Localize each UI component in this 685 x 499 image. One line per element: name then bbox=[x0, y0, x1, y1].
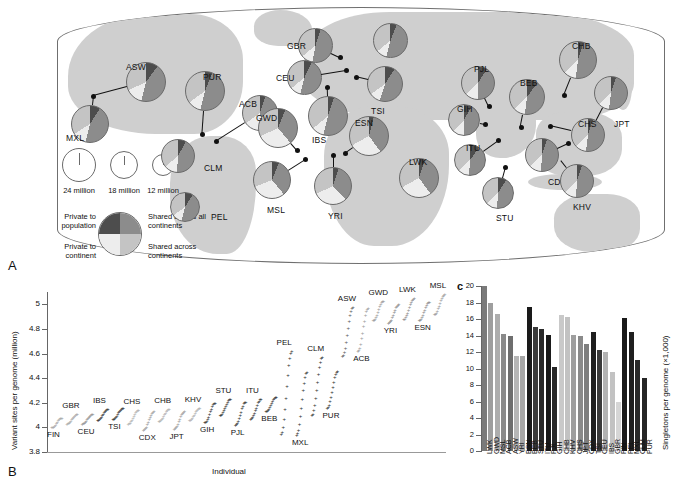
pie-label-gih: GIH bbox=[457, 104, 473, 114]
scatter-group-label-tsi: TSI bbox=[108, 422, 120, 431]
pie-label-ceu: CEU bbox=[276, 73, 295, 83]
pie-chart-cdx bbox=[525, 138, 559, 172]
panel-c-y-tick bbox=[476, 319, 481, 320]
panel-c-y-tick-label: 18 bbox=[460, 298, 474, 307]
scatter-point: + bbox=[360, 335, 364, 341]
scatter-point: + bbox=[229, 396, 233, 402]
pie-label-khv: KHV bbox=[573, 202, 591, 212]
bar-jpt bbox=[578, 336, 583, 451]
scatter-group-label-mxl: MXL bbox=[292, 438, 308, 447]
pie-label-mxl: MXL bbox=[66, 133, 84, 143]
scatter-group-label-acb: ACB bbox=[353, 354, 369, 363]
scatter-point: + bbox=[382, 298, 386, 304]
scatter-point: + bbox=[397, 301, 401, 307]
panel-b-y-tick bbox=[42, 427, 47, 428]
scatter-group-label-asw: ASW bbox=[338, 294, 356, 303]
bar-clm bbox=[635, 360, 640, 451]
panel-b-y-tick bbox=[42, 329, 47, 330]
bar-mxl bbox=[629, 332, 634, 451]
scatter-point: + bbox=[305, 369, 309, 375]
pie-label-clm: CLM bbox=[204, 163, 223, 173]
scatter-group-label-itu: ITU bbox=[246, 386, 259, 395]
scatter-group-label-ibs: IBS bbox=[93, 396, 106, 405]
scatter-point: + bbox=[302, 380, 306, 386]
panel-b-y-tick bbox=[42, 304, 47, 305]
scatter-point: + bbox=[290, 348, 294, 354]
scatter-point: + bbox=[60, 415, 64, 421]
bar-asw bbox=[508, 336, 513, 451]
panel-a-letter: A bbox=[8, 258, 17, 273]
size-legend-circle-24m bbox=[62, 148, 96, 182]
pie-label-chs: CHS bbox=[578, 119, 597, 129]
pie-label-chb: CHB bbox=[572, 41, 591, 51]
quad-shared-across-continents bbox=[120, 234, 141, 255]
scatter-point: + bbox=[137, 407, 141, 413]
scatter-point: + bbox=[412, 295, 416, 301]
panel-c-y-tick-label: 20 bbox=[460, 281, 474, 290]
scatter-group-label-msl: MSL bbox=[430, 281, 446, 290]
scatter-point: + bbox=[318, 364, 322, 370]
panel-a-world-map: 24 million 18 million 12 million Private… bbox=[0, 0, 685, 272]
panel-c-plot-area bbox=[482, 286, 648, 451]
pie-chart-msl bbox=[253, 161, 291, 199]
pie-label-lwk: LWK bbox=[409, 157, 427, 167]
pie-label-tsi: TSI bbox=[371, 106, 385, 116]
bar-msl bbox=[495, 314, 500, 451]
panel-c-y-tick bbox=[476, 336, 481, 337]
scatter-point: + bbox=[167, 406, 171, 412]
panel-c-y-tick bbox=[476, 435, 481, 436]
panel-c-y-tick bbox=[476, 286, 481, 287]
scatter-group-label-fin: FIN bbox=[47, 430, 60, 439]
scatter-point: + bbox=[317, 371, 321, 377]
bar-stu bbox=[533, 327, 538, 451]
bar-pjl bbox=[546, 335, 551, 451]
bar-ibs bbox=[603, 352, 608, 451]
panel-c-y-tick bbox=[476, 451, 481, 452]
panel-b-letter: B bbox=[8, 464, 17, 479]
scatter-point: + bbox=[315, 387, 319, 393]
scatter-point: + bbox=[362, 323, 366, 329]
pie-chart-pel bbox=[170, 192, 200, 222]
bar-ceu bbox=[597, 350, 602, 451]
cat-legend-label-private-population: Private to population bbox=[42, 212, 96, 230]
bar-beb bbox=[527, 307, 532, 451]
scatter-point: + bbox=[298, 421, 302, 427]
scatter-point: + bbox=[275, 394, 279, 400]
scatter-group-label-gwd: GWD bbox=[368, 288, 388, 297]
pie-label-gbr: GBR bbox=[287, 41, 306, 51]
scatter-point: + bbox=[321, 354, 325, 360]
panel-c-y-tick bbox=[476, 303, 481, 304]
pie-chart-fin bbox=[373, 23, 408, 58]
pie-label-beb: BEB bbox=[520, 78, 538, 88]
pie-label-yri: YRI bbox=[328, 211, 343, 221]
scatter-group-label-lwk: LWK bbox=[399, 285, 416, 294]
scatter-point: + bbox=[316, 379, 320, 385]
pie-label-ibs: IBS bbox=[312, 135, 326, 145]
size-legend-caption-18m: 18 million bbox=[102, 186, 146, 195]
size-legend-circle-18m bbox=[110, 151, 138, 179]
pie-chart-stu bbox=[482, 177, 514, 209]
scatter-group-label-ceu: CEU bbox=[78, 427, 95, 436]
scatter-point: + bbox=[314, 395, 318, 401]
panel-c-y-tick bbox=[476, 352, 481, 353]
panel-b-y-tick-label: 3.8 bbox=[14, 447, 40, 456]
panel-b-y-tick-label: 4.6 bbox=[14, 349, 40, 358]
scatter-point: + bbox=[287, 362, 291, 368]
pie-label-esn: ESN bbox=[355, 118, 373, 128]
scatter-point: + bbox=[282, 416, 286, 422]
scatter-group-label-khv: KHV bbox=[185, 395, 201, 404]
bar-khv bbox=[565, 317, 570, 451]
scatter-point: + bbox=[91, 411, 95, 417]
scatter-point: + bbox=[183, 408, 187, 414]
scatter-group-label-cdx: CDX bbox=[139, 433, 156, 442]
pie-chart-jpt bbox=[594, 76, 628, 110]
pie-chart-clm bbox=[161, 139, 195, 173]
pie-label-jpt: JPT bbox=[614, 119, 630, 129]
scatter-point: + bbox=[344, 345, 348, 351]
pie-label-pjl: PJL bbox=[474, 64, 489, 74]
pie-chart-khv bbox=[560, 164, 594, 198]
bar-label-pur: PUR bbox=[646, 439, 653, 454]
quad-shared-all-continents bbox=[120, 213, 141, 234]
category-legend-pie bbox=[98, 212, 142, 256]
scatter-point: + bbox=[359, 341, 363, 347]
